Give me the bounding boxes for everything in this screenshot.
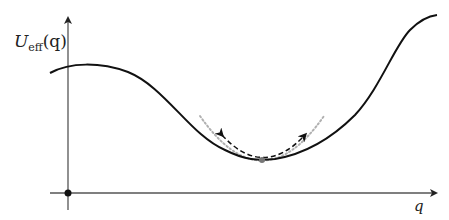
- x-axis-label: q: [414, 197, 424, 215]
- potential-curve: [50, 15, 437, 160]
- y-axis-label: Ueff(q): [14, 31, 67, 54]
- minimum-dot: [259, 157, 265, 163]
- potential-diagram: Ueff(q) q: [0, 0, 449, 220]
- origin-dot: [65, 190, 72, 197]
- harmonic-approximation-curve: [200, 116, 324, 161]
